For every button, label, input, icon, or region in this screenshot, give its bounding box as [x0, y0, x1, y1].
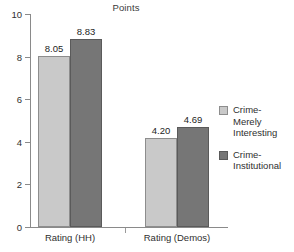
- bar-value-label-demos-merely: 4.20: [152, 125, 171, 136]
- y-tick-label-2: 2: [0, 179, 22, 190]
- legend-swatch-icon-dark: [219, 151, 228, 160]
- x-axis-label-rating-hh: Rating (HH): [45, 232, 95, 243]
- x-axis-group-separator-tick: [125, 228, 126, 233]
- bar-value-label-hh-institutional: 8.83: [77, 26, 96, 37]
- bar-rating-demos-crime-institutional[interactable]: [177, 127, 209, 227]
- bar-rating-demos-crime-merely-interesting[interactable]: [145, 138, 177, 227]
- legend-item-crime-merely-interesting[interactable]: Crime- Merely Interesting: [219, 104, 294, 139]
- chart-title: Points: [0, 2, 252, 13]
- y-tick-label-0: 0: [0, 222, 22, 233]
- bar-rating-hh-crime-institutional[interactable]: [70, 39, 102, 227]
- y-tick-mark-0: [25, 227, 30, 228]
- y-tick-label-6: 6: [0, 94, 22, 105]
- y-tick-label-8: 8: [0, 51, 22, 62]
- x-axis-line: [30, 227, 228, 228]
- legend: Crime- Merely Interesting Crime- Institu…: [219, 104, 294, 182]
- bar-rating-hh-crime-merely-interesting[interactable]: [38, 56, 70, 227]
- legend-label-crime-institutional: Crime- Institutional: [233, 149, 294, 172]
- legend-item-crime-institutional[interactable]: Crime- Institutional: [219, 149, 294, 172]
- bar-chart: Points 0 2 4 6 8 10 8.05 8.83 4.20 4.69 …: [0, 0, 294, 252]
- bar-value-label-demos-institutional: 4.69: [184, 114, 203, 125]
- x-axis-label-rating-demos: Rating (Demos): [144, 232, 211, 243]
- bar-value-label-hh-merely: 8.05: [45, 43, 64, 54]
- legend-swatch-icon-light: [219, 106, 228, 115]
- y-tick-label-4: 4: [0, 136, 22, 147]
- y-tick-label-10: 10: [0, 9, 22, 20]
- legend-label-crime-merely-interesting: Crime- Merely Interesting: [233, 104, 294, 139]
